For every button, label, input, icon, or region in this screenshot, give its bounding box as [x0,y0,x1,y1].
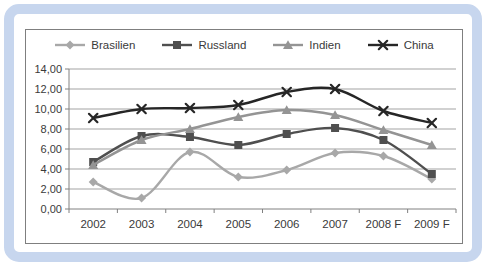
x-tick-label: 2009 F [414,218,450,230]
y-tick-label: 10,00 [34,103,62,115]
plot-area: 0,002,004,006,008,0010,0012,0014,0020022… [26,30,462,243]
x-tick-label: 2005 [226,218,252,230]
y-tick-label: 14,00 [34,63,62,75]
y-tick-label: 0,00 [41,203,62,215]
x-tick-label: 2008 F [366,218,402,230]
chart: 0,002,004,006,008,0010,0012,0014,0020022… [25,29,463,244]
y-tick-label: 6,00 [41,143,62,155]
series-china [89,85,436,127]
x-tick-label: 2004 [177,218,203,230]
series-brasilien [89,148,437,203]
y-tick-label: 2,00 [41,183,62,195]
y-tick-label: 4,00 [41,163,62,175]
y-tick-label: 12,00 [34,83,62,95]
x-tick-label: 2006 [274,218,300,230]
x-tick-label: 2003 [129,218,155,230]
y-tick-label: 8,00 [41,123,62,135]
screenshot-root: 0,002,004,006,008,0010,0012,0014,0020022… [0,0,488,268]
series-line [93,152,432,199]
x-tick-label: 2002 [80,218,106,230]
x-tick-label: 2007 [322,218,348,230]
